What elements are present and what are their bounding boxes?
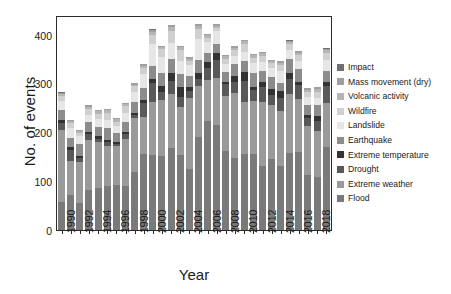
legend-label: Mass movement (dry)	[348, 78, 431, 87]
bar-1990[interactable]	[58, 92, 65, 230]
bar-2006[interactable]	[204, 34, 211, 230]
bar-2011[interactable]	[250, 54, 257, 230]
legend-swatch-icon	[337, 93, 344, 100]
x-tick-mark	[80, 231, 81, 234]
bar-2000[interactable]	[149, 29, 156, 230]
bar-2015[interactable]	[286, 40, 293, 230]
bar-segment	[250, 73, 257, 87]
bar-segment	[113, 126, 120, 133]
bar-segment	[213, 31, 220, 44]
bar-2001[interactable]	[158, 46, 165, 230]
bar-segment	[204, 68, 211, 79]
bar-segment	[122, 139, 129, 186]
x-tick-mark	[116, 231, 117, 234]
x-tick-mark	[244, 231, 245, 234]
legend-item-flood[interactable]: Flood	[337, 191, 451, 206]
bar-segment	[58, 123, 65, 130]
bar-segment	[85, 115, 92, 122]
bar-segment	[286, 50, 293, 59]
y-tick-label: 100	[26, 177, 52, 188]
legend-swatch-icon	[337, 195, 344, 202]
bar-segment	[268, 77, 275, 89]
x-tick-mark	[317, 231, 318, 234]
bar-segment	[58, 202, 65, 230]
bar-2009[interactable]	[231, 46, 238, 230]
bar-segment	[186, 76, 193, 87]
x-tick-label: 2000	[157, 210, 168, 233]
bar-segment	[241, 61, 248, 72]
bar-segment	[149, 66, 156, 79]
bar-1998[interactable]	[131, 83, 138, 230]
bar-segment	[231, 93, 238, 158]
bar-segment	[314, 131, 321, 177]
legend-item-earthquake[interactable]: Earthquake	[337, 133, 451, 148]
bar-segment	[241, 44, 248, 51]
x-tick-mark	[107, 231, 108, 234]
chart-legend: ImpactMass movement (dry)Volcanic activi…	[337, 60, 451, 206]
bar-segment	[304, 97, 311, 105]
bar-1999[interactable]	[140, 64, 147, 230]
x-tick-mark	[217, 231, 218, 234]
legend-swatch-icon	[337, 108, 344, 115]
bar-segment	[140, 117, 147, 154]
bar-segment	[213, 44, 220, 53]
legend-item-landslide[interactable]: Landslide	[337, 118, 451, 133]
x-tick-mark	[89, 231, 90, 234]
legend-item-impact[interactable]: Impact	[337, 60, 451, 75]
bar-segment	[195, 39, 202, 60]
bar-segment	[241, 52, 248, 61]
x-tick-mark	[126, 231, 127, 234]
bar-segment	[177, 107, 184, 154]
legend-item-extreme-weather[interactable]: Extreme weather	[337, 177, 451, 192]
legend-label: Drought	[348, 165, 379, 174]
bar-segment	[259, 71, 266, 82]
bar-2013[interactable]	[268, 60, 275, 230]
bar-segment	[204, 80, 211, 121]
bar-segment	[85, 122, 92, 132]
bar-segment	[195, 86, 202, 137]
bar-segment	[277, 111, 284, 166]
legend-swatch-icon	[337, 122, 344, 129]
x-tick-label: 1994	[102, 210, 113, 233]
bar-segment	[177, 61, 184, 74]
bar-segment	[67, 138, 74, 148]
bar-2016[interactable]	[295, 51, 302, 230]
bar-segment	[158, 73, 165, 87]
x-tick-mark	[62, 231, 63, 234]
legend-item-drought[interactable]: Drought	[337, 162, 451, 177]
bar-segment	[314, 105, 321, 116]
bar-segment	[295, 99, 302, 153]
bar-segment	[259, 102, 266, 166]
bar-segment	[95, 127, 102, 136]
bar-2014[interactable]	[277, 61, 284, 230]
x-tick-mark	[253, 231, 254, 234]
bar-segment	[295, 85, 302, 99]
bar-2019[interactable]	[323, 48, 330, 230]
bar-2008[interactable]	[222, 55, 229, 230]
legend-item-wildfire[interactable]: Wildfire	[337, 104, 451, 119]
bar-segment	[158, 92, 165, 100]
bar-segment	[277, 98, 284, 111]
plot-area	[56, 16, 332, 231]
bar-segment	[131, 172, 138, 230]
legend-swatch-icon	[337, 151, 344, 158]
legend-item-volcanic-activity[interactable]: Volcanic activity	[337, 89, 451, 104]
bar-2010[interactable]	[241, 40, 248, 231]
x-tick-mark	[281, 231, 282, 234]
bar-2004[interactable]	[186, 57, 193, 230]
x-tick-mark	[171, 231, 172, 234]
bar-segment	[204, 121, 211, 230]
bar-segment	[168, 31, 175, 43]
legend-item-extreme-temperature[interactable]: Extreme temperature	[337, 148, 451, 163]
bar-2003[interactable]	[177, 46, 184, 230]
bar-2018[interactable]	[314, 87, 321, 230]
bar-segment	[140, 74, 147, 88]
x-tick-mark	[326, 231, 327, 234]
x-tick-mark	[71, 231, 72, 234]
legend-item-mass-movement-dry[interactable]: Mass movement (dry)	[337, 75, 451, 90]
bar-2005[interactable]	[195, 24, 202, 230]
bar-2002[interactable]	[168, 25, 175, 230]
bar-2007[interactable]	[213, 24, 220, 230]
bar-segment	[268, 68, 275, 76]
bar-2012[interactable]	[259, 52, 266, 230]
